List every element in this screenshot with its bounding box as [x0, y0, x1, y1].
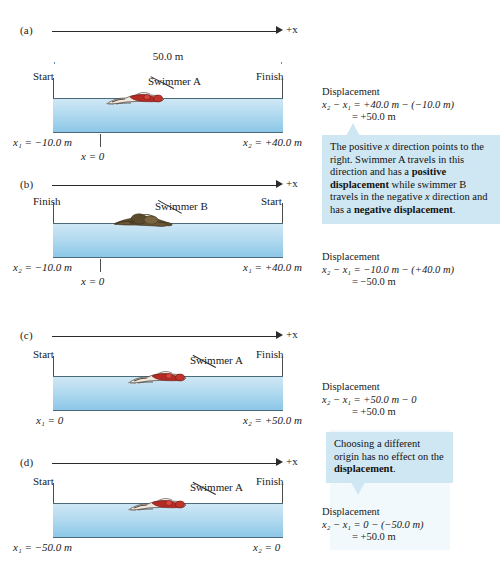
panel-a-origin-tick [100, 134, 101, 147]
panel-a-left-coord: x₁ = −10.0 m [13, 136, 72, 148]
note-direction-tail [346, 123, 360, 136]
panel-a-start-label: Start [33, 70, 54, 82]
note-origin: Choosing a different origin has no effec… [326, 432, 453, 483]
displacement-title-d: Displacement [322, 506, 424, 518]
note-direction: The positive x direction points to the r… [322, 135, 500, 224]
physics-figure-displacement: (a) +x 50.0 m Start Finish Swim [0, 0, 501, 569]
displacement-eq1-b: x₂ − x₁ = −10.0 m − (+40.0 m) [322, 264, 454, 276]
x-axis-label-b: +x [286, 177, 298, 189]
displacement-eq2-d: = +50.0 m [322, 531, 424, 543]
note-direction-text: The positive x direction points to the r… [330, 141, 487, 215]
panel-c-left-coord: x₁ = 0 [36, 414, 63, 426]
x-axis-label-d: +x [286, 455, 298, 467]
swimmer-b-illustration [110, 210, 178, 232]
x-axis-arrow-icon-b [276, 180, 283, 188]
displacement-eq1-c: x₂ − x₁ = +50.0 m − 0 [322, 394, 417, 406]
x-axis-arrow-icon-c [276, 331, 283, 339]
displacement-text-d: Displacement x₂ − x₁ = 0 − (−50.0 m) = +… [322, 506, 424, 543]
panel-d-right-coord: x₂ = 0 [253, 541, 280, 553]
panel-a-finish-label: Finish [256, 70, 284, 82]
x-axis-label-a: +x [286, 23, 298, 35]
displacement-title-b: Displacement [322, 251, 454, 263]
note-origin-tail [351, 482, 365, 495]
dimension-value-a: 50.0 m [53, 50, 283, 62]
displacement-title-c: Displacement [322, 381, 417, 393]
panel-b-left-coord: x₂ = −10.0 m [13, 261, 72, 273]
panel-d-start-label: Start [33, 475, 54, 487]
x-axis-arrow-icon-a [276, 26, 283, 34]
displacement-eq2-c: = +50.0 m [322, 406, 417, 418]
dimension-line-a: 50.0 m [53, 53, 283, 64]
panel-c-finish-label: Finish [256, 348, 284, 360]
x-axis-line-b [52, 185, 278, 186]
panel-b-origin-tick [100, 259, 101, 272]
panel-a-right-coord: x₂ = +40.0 m [243, 136, 302, 148]
displacement-eq1-a: x₂ − x₁ = +40.0 m − (−10.0 m) [322, 99, 454, 111]
panel-b-finish-label: Finish [33, 195, 61, 207]
panel-b-origin-label: x = 0 [81, 275, 104, 287]
panel-d-left-coord: x₁ = −50.0 m [13, 541, 72, 553]
panel-d-finish-label: Finish [256, 475, 284, 487]
x-axis-label-c: +x [286, 328, 298, 340]
panel-a-origin-label: x = 0 [81, 150, 104, 162]
swimmer-a-illustration [106, 86, 174, 108]
panel-a-swimmer-label: Swimmer A [148, 75, 201, 87]
displacement-text-a: Displacement x₂ − x₁ = +40.0 m − (−10.0 … [322, 86, 454, 123]
displacement-text-c: Displacement x₂ − x₁ = +50.0 m − 0 = +50… [322, 381, 417, 418]
displacement-eq2-b: = −50.0 m [322, 276, 454, 288]
panel-d-label: (d) [20, 456, 33, 468]
panel-b-right-coord: x₁ = +40.0 m [243, 261, 302, 273]
panel-d-swimmer-label: Swimmer A [190, 481, 243, 493]
panel-c: (c) +x Start Finish Swimmer A x₁ = 0 x₂ … [0, 329, 320, 441]
swimmer-a-illustration-c [128, 365, 196, 387]
displacement-eq1-d: x₂ − x₁ = 0 − (−50.0 m) [322, 519, 424, 531]
panel-c-label: (c) [20, 329, 33, 341]
panel-c-swimmer-label: Swimmer A [190, 354, 243, 366]
x-axis-line-c [52, 336, 278, 337]
panel-b: (b) +x Finish Start Swimmer B x₂ = −10.0… [0, 178, 320, 308]
panel-a: (a) +x 50.0 m Start Finish Swim [0, 24, 320, 169]
displacement-text-b: Displacement x₂ − x₁ = −10.0 m − (+40.0 … [322, 251, 454, 288]
panel-b-start-label: Start [261, 195, 282, 207]
panel-c-start-label: Start [33, 348, 54, 360]
panel-c-right-coord: x₂ = +50.0 m [243, 414, 302, 426]
displacement-eq2-a: = +50.0 m [322, 111, 454, 123]
x-axis-arrow-icon-d [276, 458, 283, 466]
displacement-title-a: Displacement [322, 86, 454, 98]
note-origin-text: Choosing a different origin has no effec… [334, 438, 444, 474]
swimmer-a-illustration-d [128, 492, 196, 514]
panel-b-label: (b) [20, 178, 33, 190]
panel-a-label: (a) [20, 24, 33, 36]
panel-d: (d) +x Start Finish Swimmer A x₁ = −50.0… [0, 456, 320, 568]
x-axis-line-a [52, 31, 278, 32]
x-axis-line-d [52, 463, 278, 464]
